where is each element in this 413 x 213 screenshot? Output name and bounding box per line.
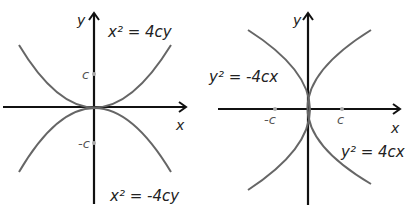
y-axis-label: y	[76, 12, 86, 28]
equation-left: y² = -4cx	[208, 68, 278, 86]
tick-label-c: c	[337, 112, 344, 127]
tick-c	[340, 107, 344, 111]
left-diagram: c -c y x x² = 4cy x² = -4cy	[3, 12, 186, 205]
equation-bottom: x² = -4cy	[109, 187, 180, 205]
tick-c	[92, 72, 96, 76]
tick-label-c: c	[82, 67, 89, 82]
tick-label-neg-c: -c	[264, 112, 276, 127]
tick-neg-c	[92, 141, 96, 145]
y-axis-label: y	[292, 12, 302, 28]
parabola-diagrams: c -c y x x² = 4cy x² = -4cy c -c y x y² …	[0, 0, 413, 213]
x-axis-label: x	[390, 120, 400, 136]
x-axis-label: x	[175, 117, 185, 133]
tick-label-neg-c: -c	[78, 136, 90, 151]
right-diagram: c -c y x y² = -4cx y² = 4cx	[208, 12, 405, 205]
equation-top: x² = 4cy	[107, 23, 173, 41]
tick-neg-c	[273, 107, 277, 111]
equation-right: y² = 4cx	[340, 143, 405, 161]
